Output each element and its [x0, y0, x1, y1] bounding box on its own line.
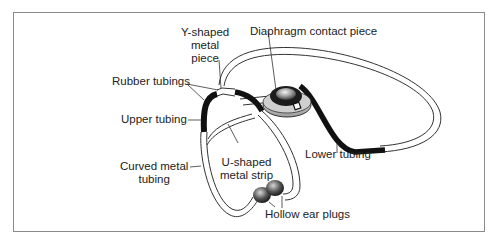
label-diaphragm-contact-piece: Diaphragm contact piece: [250, 25, 377, 38]
lower-tubing-shape: [300, 86, 385, 152]
hollow-ear-plugs: [253, 180, 284, 203]
label-u-shaped-metal-strip: U-shaped metal strip: [220, 156, 273, 182]
label-upper-tubing: Upper tubing: [121, 113, 187, 126]
label-line: tubing: [120, 173, 188, 186]
label-line: metal strip: [220, 169, 273, 182]
label-lower-tubing: Lower tubing: [305, 148, 371, 161]
label-rubber-tubings: Rubber tubings: [112, 75, 190, 88]
label-line: U-shaped: [220, 156, 273, 169]
label-line: piece: [181, 52, 229, 65]
label-line: Curved metal: [120, 160, 188, 173]
label-line: Y-shaped: [181, 26, 229, 39]
label-hollow-ear-plugs: Hollow ear plugs: [265, 208, 350, 221]
label-curved-metal-tubing: Curved metal tubing: [120, 160, 188, 186]
stethoscope-illustration: [0, 0, 496, 247]
label-line: metal: [181, 39, 229, 52]
upper-tubing-shape: [204, 94, 217, 132]
label-y-shaped-metal-piece: Y-shaped metal piece: [181, 26, 229, 65]
